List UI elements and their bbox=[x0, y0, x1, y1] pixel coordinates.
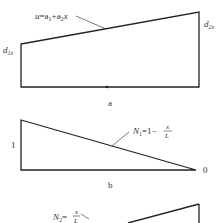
equation-u: u=a1+a2x bbox=[35, 11, 68, 22]
label-d1x: d1x bbox=[3, 45, 14, 56]
caption-a: a bbox=[108, 98, 112, 108]
panel-c: N2= x L bbox=[52, 204, 199, 223]
frac-num-b: x bbox=[165, 123, 170, 131]
label-value-0: 0 bbox=[203, 165, 208, 175]
equation-N1: N1=1− bbox=[132, 126, 157, 137]
equation-N2: N2= bbox=[52, 212, 67, 223]
leader-line-b bbox=[112, 132, 129, 146]
trapezoid-displacement bbox=[21, 12, 199, 87]
shape-function-diagram: u=a1+a2x d1x d2x a N1=1− x L 1 0 b N2= x… bbox=[0, 0, 222, 223]
triangle-N1 bbox=[21, 120, 196, 170]
frac-den-c: L bbox=[73, 217, 78, 223]
midpoint-marker bbox=[106, 86, 109, 89]
frac-num-c: x bbox=[74, 208, 79, 216]
label-d2x: d2x bbox=[204, 19, 215, 30]
triangle-N2-hypotenuse bbox=[128, 204, 199, 223]
label-value-1: 1 bbox=[11, 140, 16, 150]
caption-b: b bbox=[108, 180, 113, 190]
panel-a: u=a1+a2x d1x d2x a bbox=[3, 11, 215, 108]
frac-den-b: L bbox=[164, 132, 169, 140]
leader-line-c bbox=[81, 214, 89, 219]
panel-b: N1=1− x L 1 0 b bbox=[11, 120, 208, 190]
leader-line-a bbox=[76, 16, 106, 29]
